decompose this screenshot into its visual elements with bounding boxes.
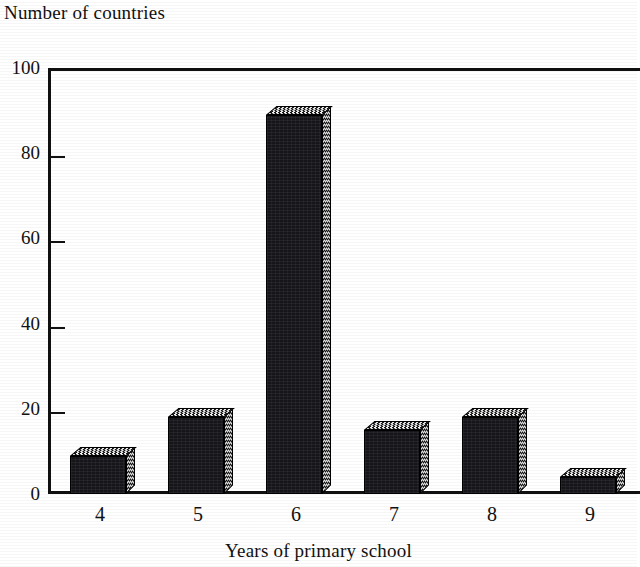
x-axis-tick-label: 8 [487,504,497,524]
x-axis-tick-label: 7 [389,504,399,524]
x-axis-tick-label: 5 [193,504,203,524]
x-axis-title: Years of primary school [0,540,637,562]
x-axis-tick-label: 9 [585,504,595,524]
x-axis-tick-label: 6 [291,504,301,524]
x-axis-tick-label: 4 [95,504,105,524]
